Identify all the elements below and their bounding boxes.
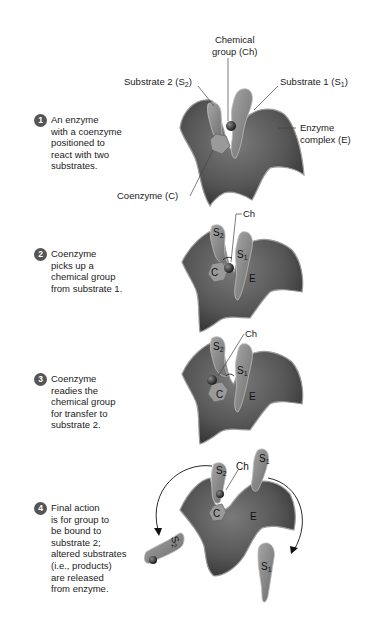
chemical-group xyxy=(207,375,217,385)
chemical-group-label: Chemical group (Ch) xyxy=(212,34,257,57)
enzyme-shape xyxy=(180,478,295,576)
step-description: Coenzyme readies the chemical group for … xyxy=(51,373,115,431)
step-description: Final action is for group to be bound to… xyxy=(51,502,127,595)
label-line: group (Ch) xyxy=(212,46,257,58)
released-substrate-1 xyxy=(258,543,274,602)
e-label: E xyxy=(249,273,256,284)
enzyme-complex-label: Enzyme complex (E) xyxy=(300,122,351,145)
step-description: Coenzyme picks up a chemical group from … xyxy=(51,248,122,294)
label-line: complex (E) xyxy=(300,134,351,146)
step-number-badge: 3 xyxy=(34,373,47,386)
label-sub: 1 xyxy=(341,81,345,88)
ch-label-panel-2: Ch xyxy=(243,208,255,220)
chemical-group xyxy=(226,121,236,131)
step-number-badge: 4 xyxy=(34,502,47,515)
substrate-2-label: Substrate 2 (S2) xyxy=(124,76,192,91)
c-label: C xyxy=(211,267,218,278)
ch-label-panel-3: Ch xyxy=(245,328,257,340)
c-label: C xyxy=(216,389,223,400)
panel-4: S2 S1 Ch C E S2 S1 xyxy=(144,449,302,602)
substrate-1-label: Substrate 1 (S1) xyxy=(280,76,348,91)
panel-3: S2 S1 C E xyxy=(182,334,303,444)
c-label: C xyxy=(213,508,220,519)
step-number-badge: 1 xyxy=(34,114,47,127)
label-text: Substrate 1 (S xyxy=(280,76,341,87)
panel-2: S2 S1 C E xyxy=(182,214,303,332)
ch-label: Ch xyxy=(236,461,249,472)
label-text: Substrate 2 (S xyxy=(124,76,185,87)
chemical-group xyxy=(216,490,224,498)
e-label: E xyxy=(250,511,257,522)
label-line: Chemical xyxy=(212,34,257,46)
coenzyme-label: Coenzyme (C) xyxy=(117,190,178,202)
e-label: E xyxy=(249,391,256,402)
step-number-badge: 2 xyxy=(34,248,47,261)
label-line: Enzyme xyxy=(300,122,351,134)
label-sub: 2 xyxy=(185,81,189,88)
chemical-group xyxy=(224,263,234,273)
step-description: An enzyme with a coenzyme positioned to … xyxy=(51,114,122,172)
chemical-group xyxy=(149,556,157,564)
